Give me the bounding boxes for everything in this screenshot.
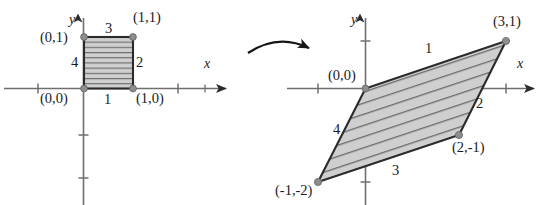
right-x-axis-label: x <box>517 57 523 71</box>
right-vertex-label-neg1-neg2: (-1,-2) <box>275 183 312 198</box>
left-vertex-label-1-1: (1,1) <box>133 10 161 25</box>
right-edge-label-2: 2 <box>476 96 483 111</box>
vertex-dot-2-neg1 <box>455 131 462 138</box>
right-vertex-label-2-neg1: (2,-1) <box>452 140 485 155</box>
vertex-dot-3-1 <box>502 37 509 44</box>
left-edge-label-4: 4 <box>71 55 78 70</box>
left-y-axis-label: y <box>69 13 75 27</box>
figure-canvas <box>0 0 548 205</box>
left-edge-label-2: 2 <box>136 55 143 70</box>
transformation-arrow <box>248 42 309 53</box>
unit-square-polygon <box>84 37 133 89</box>
right-edge-label-3: 3 <box>392 163 399 178</box>
left-vertex-label-0-1: (0,1) <box>40 30 68 45</box>
right-y-axis-label: y <box>351 13 357 27</box>
left-vertex-label-1-0: (1,0) <box>136 91 164 106</box>
vertex-dot-0-0 <box>81 85 88 92</box>
left-edge-label-3: 3 <box>105 21 112 36</box>
vertex-dot-0-1 <box>81 34 88 41</box>
parallelogram-polygon <box>318 41 506 182</box>
left-vertex-label-0-0: (0,0) <box>40 91 68 106</box>
left-edge-label-1: 1 <box>104 92 111 107</box>
vertex-dot-0-0 <box>362 85 369 92</box>
transformation-figure: x y (0,1) (1,1) (0,0) (1,0) 1 2 3 4 x y … <box>0 0 548 205</box>
vertex-dot-neg1-neg2 <box>314 178 321 185</box>
right-vertex-label-0-0: (0,0) <box>328 68 356 83</box>
left-x-axis-label: x <box>204 57 210 71</box>
right-edge-label-1: 1 <box>425 41 432 56</box>
parallelogram-shape <box>318 41 506 182</box>
right-edge-label-4: 4 <box>333 122 340 137</box>
right-vertex-label-3-1: (3,1) <box>493 14 521 29</box>
vertex-dot-1-1 <box>130 34 137 41</box>
unit-square-shape <box>84 37 133 89</box>
